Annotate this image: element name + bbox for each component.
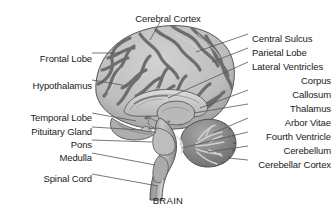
brain-diagram: Cerebral Cortex Frontal Lobe Hypothalamu…	[0, 0, 336, 218]
medulla-structure	[153, 156, 168, 183]
label-arbor-vitae: Arbor Vitae	[230, 117, 331, 128]
label-spinal-cord: Spinal Cord	[0, 173, 92, 184]
label-pons: Pons	[0, 139, 92, 150]
brainstem-structure	[150, 118, 182, 200]
label-pituitary-gland: Pituitary Gland	[0, 126, 92, 137]
label-hypothalamus: Hypothalamus	[0, 80, 92, 91]
label-temporal-lobe: Temporal Lobe	[0, 112, 92, 123]
label-thalamus: Thalamus	[230, 103, 331, 114]
figure-caption: BRAIN	[0, 195, 336, 206]
label-medulla: Medulla	[0, 152, 92, 163]
label-callosum: Callosum	[230, 89, 331, 100]
label-cerebral-cortex: Cerebral Cortex	[108, 13, 228, 24]
label-corpus: Corpus	[230, 75, 331, 86]
label-central-sulcus: Central Sulcus	[252, 33, 336, 44]
label-fourth-ventricle: Fourth Ventricle	[230, 131, 331, 142]
label-frontal-lobe: Frontal Lobe	[0, 53, 92, 64]
label-lateral-ventricles: Lateral Ventricles	[252, 61, 336, 72]
label-cerebellar-cortex: Cerebellar Cortex	[230, 159, 331, 170]
label-parietal-lobe: Parietal Lobe	[252, 47, 336, 58]
label-cerebellum: Cerebellum	[230, 145, 331, 156]
